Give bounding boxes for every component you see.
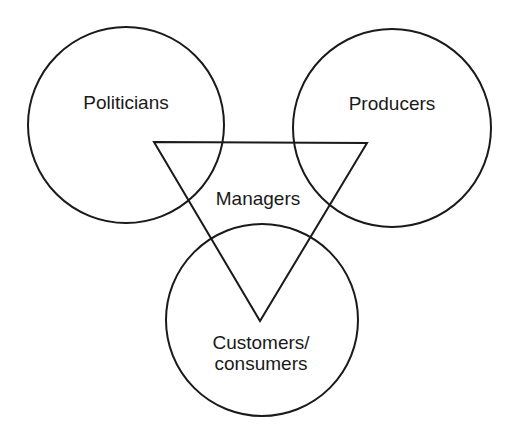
producers-label: Producers [332,93,452,114]
stakeholder-diagram: Politicians Producers Managers Customers… [0,0,510,434]
customers-label: Customers/ consumers [196,332,326,374]
customers-label-line1: Customers/ [196,332,326,353]
customers-label-line2: consumers [196,353,326,374]
managers-triangle [154,142,367,321]
managers-label: Managers [198,188,318,209]
politicians-circle [28,27,224,223]
customers-circle [166,224,358,416]
producers-circle [293,29,491,227]
politicians-label: Politicians [66,92,186,113]
